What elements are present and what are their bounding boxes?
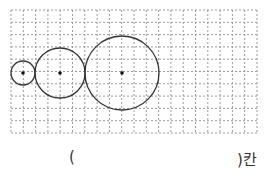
dotted-grid: [11, 10, 257, 133]
circle-grid-figure: [0, 0, 264, 145]
answer-close-label: )칸: [237, 148, 257, 169]
center-point-medium: [58, 71, 62, 75]
center-point-large: [120, 71, 124, 75]
center-point-small: [21, 71, 25, 75]
answer-open-paren: (: [69, 148, 75, 166]
